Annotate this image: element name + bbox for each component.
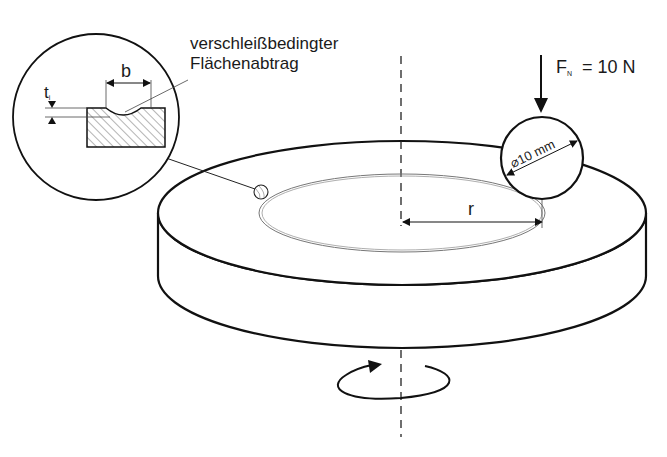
width-label: b xyxy=(121,62,131,80)
rotation-arrow-icon xyxy=(338,365,450,399)
wear-label-line1: verschleißbedingter xyxy=(190,35,338,52)
force-label: FN= 10 N xyxy=(556,58,636,77)
wear-spot xyxy=(254,185,268,199)
force-value: = 10 N xyxy=(582,57,636,77)
depth-label: ti xyxy=(44,84,50,101)
wear-label-line2: Flächenabtrag xyxy=(190,55,299,72)
radius-label: r xyxy=(468,200,474,218)
force-arrowhead xyxy=(534,98,548,113)
pin-on-disc-diagram: verschleißbedingter Flächenabtrag b ti F… xyxy=(0,0,667,457)
